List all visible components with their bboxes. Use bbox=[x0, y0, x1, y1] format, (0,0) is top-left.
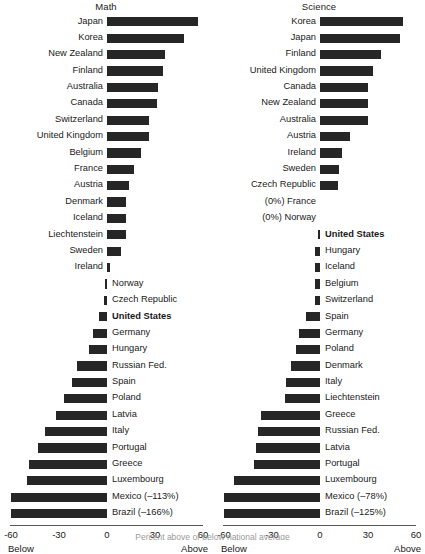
bar-row: Greece bbox=[213, 407, 425, 423]
bar-row-label: (0%) France bbox=[265, 196, 316, 207]
bar bbox=[320, 165, 339, 174]
bar bbox=[320, 66, 373, 75]
axis-line-math bbox=[10, 525, 203, 526]
bar-row: Russian Fed. bbox=[0, 358, 212, 374]
bar-row: New Zealand bbox=[213, 96, 425, 112]
bar-row: Portugal bbox=[213, 457, 425, 473]
bar-row: Russian Fed. bbox=[213, 424, 425, 440]
bar bbox=[320, 83, 368, 92]
bar-row: Germany bbox=[0, 325, 212, 341]
bar-row-label: Germany bbox=[112, 327, 150, 338]
bar-row-label: Mexico (–113%) bbox=[112, 491, 178, 502]
bar bbox=[234, 476, 320, 485]
bar-row-label: Greece bbox=[112, 458, 143, 469]
bar-row: Poland bbox=[0, 391, 212, 407]
bar bbox=[320, 116, 368, 125]
bar-row-label: Canada bbox=[283, 81, 316, 92]
bar-row-label: Brazil (–166%) bbox=[112, 507, 173, 518]
bar bbox=[318, 230, 320, 239]
bar bbox=[258, 427, 320, 436]
bar bbox=[107, 116, 149, 125]
bar-row: Canada bbox=[213, 80, 425, 96]
bar-row-label: Korea bbox=[291, 16, 316, 27]
bar-row-label: Australia bbox=[280, 114, 316, 125]
bar-row-label: Spain bbox=[112, 376, 136, 387]
bar-row: Finland bbox=[0, 63, 212, 79]
bar-row-label: Liechtenstein bbox=[48, 229, 103, 240]
bar-row: Ireland bbox=[213, 145, 425, 161]
bar-row: (0%) France bbox=[213, 194, 425, 210]
bar-row: Italy bbox=[0, 424, 212, 440]
bar bbox=[27, 476, 107, 485]
bar-row-label: Finland bbox=[73, 65, 104, 76]
bar-row: Ireland bbox=[0, 260, 212, 276]
bar-row-label: Russian Fed. bbox=[112, 360, 167, 371]
bar-row-label: Germany bbox=[325, 327, 363, 338]
bar-row: Australia bbox=[213, 112, 425, 128]
bar bbox=[93, 329, 107, 338]
bar-row: United States bbox=[0, 309, 212, 325]
axis-line-science bbox=[223, 525, 416, 526]
bar bbox=[306, 312, 320, 321]
bar-row-label: Belgium bbox=[325, 278, 359, 289]
bar bbox=[107, 148, 141, 157]
bar-row: Spain bbox=[213, 309, 425, 325]
panel-title-science: Science bbox=[213, 1, 425, 12]
bar-row: Luxembourg bbox=[213, 473, 425, 489]
bar-row: Switzerland bbox=[0, 112, 212, 128]
panel-math: Math JapanKoreaNew ZealandFinlandAustral… bbox=[0, 0, 212, 540]
bar-row: Sweden bbox=[213, 162, 425, 178]
bar-row-label: Belgium bbox=[69, 147, 103, 158]
bar-row-label: United States bbox=[325, 229, 384, 240]
bar-row: Hungary bbox=[213, 243, 425, 259]
bar-row: Spain bbox=[0, 375, 212, 391]
bar-row-label: New Zealand bbox=[48, 48, 103, 59]
bar bbox=[320, 34, 400, 43]
bar-row: Austria bbox=[0, 178, 212, 194]
bar-row-label: Italy bbox=[325, 376, 342, 387]
bar bbox=[315, 279, 320, 288]
bar-row: Norway bbox=[0, 276, 212, 292]
bar-row-label: Japan bbox=[78, 16, 103, 27]
bar bbox=[256, 443, 320, 452]
bar-row: Luxembourg bbox=[0, 473, 212, 489]
bar bbox=[299, 329, 320, 338]
bar bbox=[107, 165, 134, 174]
bar bbox=[320, 17, 403, 26]
bar-row: Denmark bbox=[0, 194, 212, 210]
bar bbox=[107, 197, 126, 206]
bar-row: Sweden bbox=[0, 243, 212, 259]
bar-row-label: Spain bbox=[325, 311, 349, 322]
bar bbox=[38, 443, 107, 452]
bar bbox=[107, 99, 157, 108]
bar-row: Finland bbox=[213, 47, 425, 63]
bar bbox=[320, 181, 338, 190]
bar-row-label: Portugal bbox=[112, 442, 147, 453]
bar-row-label: New Zealand bbox=[261, 97, 316, 108]
bar-row: Latvia bbox=[213, 440, 425, 456]
bar-row-label: Russian Fed. bbox=[325, 425, 380, 436]
bar bbox=[261, 411, 320, 420]
bar-row: Liechtenstein bbox=[0, 227, 212, 243]
bar bbox=[315, 263, 320, 272]
bar-row: Korea bbox=[0, 30, 212, 46]
bar-row-label: United States bbox=[112, 311, 171, 322]
bar bbox=[224, 493, 320, 502]
bar-row-label: Ireland bbox=[288, 147, 316, 158]
bar-row-label: Japan bbox=[291, 32, 316, 43]
bar-row: Canada bbox=[0, 96, 212, 112]
bar bbox=[315, 247, 320, 256]
bar bbox=[296, 345, 320, 354]
bar bbox=[286, 378, 320, 387]
bar-row: Mexico (–113%) bbox=[0, 489, 212, 505]
bar bbox=[72, 378, 107, 387]
bar-row: Switzerland bbox=[213, 293, 425, 309]
bar bbox=[320, 132, 350, 141]
bar-row: Belgium bbox=[213, 276, 425, 292]
bar-row-label: Hungary bbox=[325, 245, 360, 256]
bar-row-label: Norway bbox=[112, 278, 144, 289]
bar-rows-science: KoreaJapanFinlandUnited KingdomCanadaNew… bbox=[213, 14, 425, 522]
bar bbox=[254, 460, 320, 469]
bar-row-label: Liechtenstein bbox=[325, 392, 380, 403]
